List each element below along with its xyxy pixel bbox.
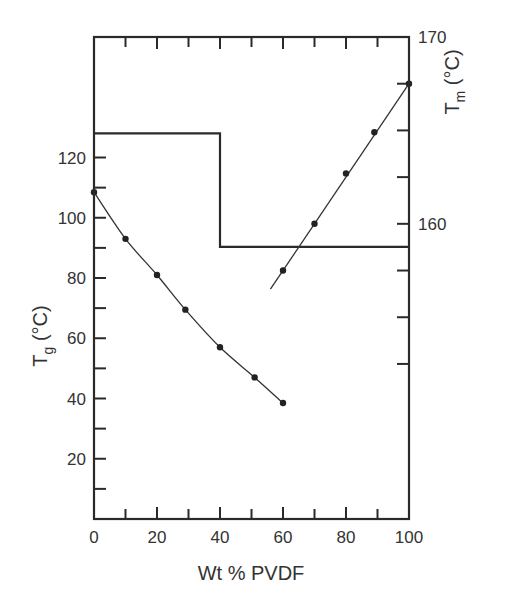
data-point-tg — [154, 272, 160, 278]
x-tick-label: 0 — [89, 528, 98, 547]
plot-frame — [94, 37, 409, 519]
phase-boundary-line — [94, 133, 409, 247]
plot-area: 02040608010020406080100120160170 Wt % PV… — [0, 0, 512, 607]
series-line-tm — [270, 84, 409, 290]
data-point-tg — [122, 236, 128, 242]
y-right-tick-label: 160 — [418, 215, 446, 234]
y-right-axis-title: Tm (°C) — [441, 49, 468, 114]
tick-labels: 02040608010020406080100120160170 — [58, 28, 447, 547]
y-left-axis-title: Tg (°C) — [29, 305, 56, 366]
x-tick-label: 20 — [148, 528, 167, 547]
data-point-tm — [311, 221, 317, 227]
data-point-tm — [280, 267, 286, 273]
data-point-tg — [182, 306, 188, 312]
data-point-tm — [343, 170, 349, 176]
x-tick-label: 80 — [337, 528, 356, 547]
y-left-tick-label: 120 — [58, 149, 86, 168]
data-point-tg — [217, 344, 223, 350]
y-right-tick-label: 170 — [418, 28, 446, 47]
x-tick-label: 100 — [395, 528, 423, 547]
data-point-tg — [251, 374, 257, 380]
data-point-tg — [280, 400, 286, 406]
step-boundary — [94, 133, 409, 247]
data-series — [91, 81, 412, 407]
tick-marks — [94, 37, 409, 519]
y-left-tick-label: 100 — [58, 209, 86, 228]
y-left-tick-label: 40 — [67, 390, 86, 409]
y-left-tick-label: 60 — [67, 329, 86, 348]
x-tick-label: 40 — [211, 528, 230, 547]
data-point-tm — [371, 129, 377, 135]
y-left-tick-label: 20 — [67, 450, 86, 469]
x-tick-label: 60 — [274, 528, 293, 547]
y-left-tick-label: 80 — [67, 269, 86, 288]
x-axis-title: Wt % PVDF — [198, 562, 305, 584]
series-line-tg — [94, 192, 283, 403]
chart: 02040608010020406080100120160170 Wt % PV… — [0, 0, 512, 607]
